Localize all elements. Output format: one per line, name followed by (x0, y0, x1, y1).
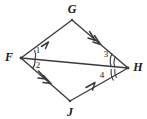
edge-mark-GH (88, 32, 101, 45)
edge-mark-FG (42, 42, 49, 49)
edge-mark-FJ (38, 71, 51, 84)
geometry-figure: G F H J 1 2 3 4 (0, 0, 147, 119)
angle-label-1: 1 (36, 46, 41, 55)
vertex-dot-F (20, 57, 23, 60)
vertex-label-G: G (68, 3, 77, 15)
vertex-dot-H (127, 67, 130, 70)
angle-arc-4 (111, 69, 117, 80)
geometry-canvas (0, 0, 147, 119)
angle-arc-2 (33, 60, 36, 69)
angle-label-2: 2 (36, 61, 41, 70)
vertex-label-H: H (133, 61, 142, 73)
vertex-label-F: F (5, 51, 13, 63)
angle-label-3: 3 (104, 50, 109, 59)
edge-FG (21, 20, 72, 58)
vertex-dot-G (71, 19, 73, 21)
angle-label-4: 4 (100, 71, 105, 80)
vertex-dot-J (69, 100, 71, 102)
vertex-label-J: J (67, 106, 73, 118)
